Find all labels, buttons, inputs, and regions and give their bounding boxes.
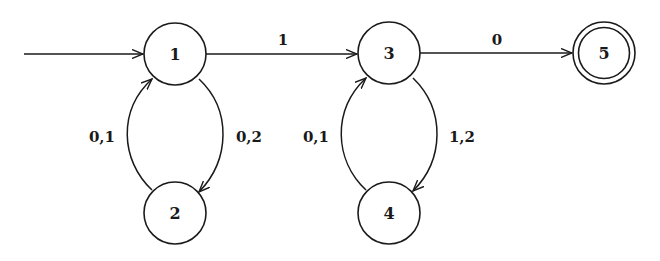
state-1-label: 1 bbox=[169, 45, 180, 64]
state-2-label: 2 bbox=[169, 204, 180, 223]
edge-4-to-3 bbox=[341, 78, 366, 190]
state-4: 4 bbox=[358, 182, 420, 244]
label-4-to-3: 0,1 bbox=[303, 128, 329, 146]
edge-2-to-1 bbox=[127, 79, 152, 190]
state-5-accepting: 5 bbox=[573, 22, 635, 84]
label-1-to-3: 1 bbox=[278, 31, 288, 49]
state-1: 1 bbox=[144, 23, 206, 85]
automaton-diagram: 1 2 3 4 5 1 0 0,2 0,1 1,2 0,1 bbox=[0, 0, 660, 261]
label-3-to-5: 0 bbox=[492, 31, 502, 49]
label-2-to-1: 0,1 bbox=[89, 128, 115, 146]
state-5-label: 5 bbox=[598, 44, 609, 63]
state-4-label: 4 bbox=[383, 204, 394, 223]
state-3: 3 bbox=[358, 22, 420, 84]
edge-3-to-4 bbox=[413, 78, 437, 191]
label-1-to-2: 0,2 bbox=[236, 128, 262, 146]
state-2: 2 bbox=[144, 182, 206, 244]
label-3-to-4: 1,2 bbox=[449, 128, 475, 146]
state-3-label: 3 bbox=[383, 44, 394, 63]
edge-1-to-2 bbox=[199, 79, 223, 192]
